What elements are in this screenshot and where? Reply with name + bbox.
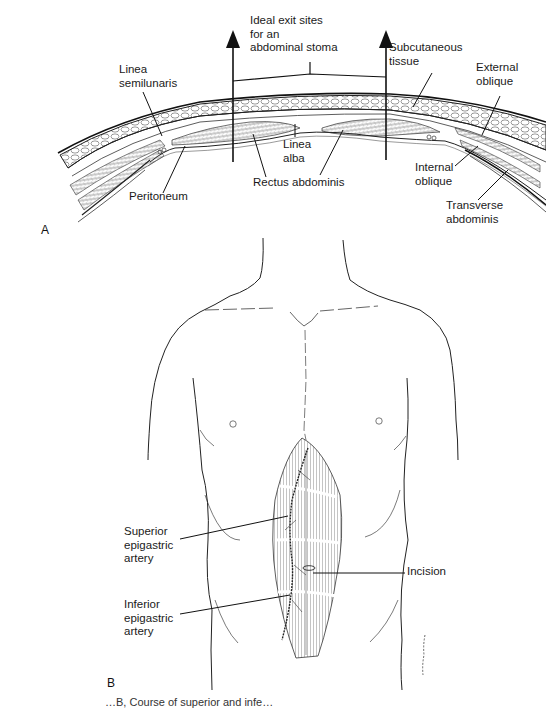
label-external-oblique: External oblique	[476, 61, 518, 88]
label-subcutaneous-tissue: Subcutaneous tissue	[389, 41, 463, 68]
label-inferior-epigastric-artery: Inferior epigastric artery	[124, 598, 173, 639]
label-internal-oblique: Internal oblique	[415, 161, 453, 188]
label-transverse-abdominis: Transverse abdominis	[446, 199, 503, 226]
label-peritoneum: Peritoneum	[129, 190, 188, 204]
label-linea-alba: Linea alba	[283, 138, 311, 165]
figure-caption-cropped: …B, Course of superior and infe…	[105, 696, 273, 708]
artist-signature	[423, 635, 425, 675]
label-incision: Incision	[407, 565, 446, 579]
panel-letter-b: B	[107, 676, 115, 690]
rectus-abdominis-exposed	[273, 438, 342, 658]
panel-letter-a: A	[41, 223, 49, 237]
label-exit-sites: Ideal exit sites for an abdominal stoma	[250, 14, 338, 55]
label-linea-semilunaris: Linea semilunaris	[119, 63, 177, 90]
label-superior-epigastric-artery: Superior epigastric artery	[124, 525, 173, 566]
label-rectus-abdominis: Rectus abdominis	[253, 176, 344, 190]
